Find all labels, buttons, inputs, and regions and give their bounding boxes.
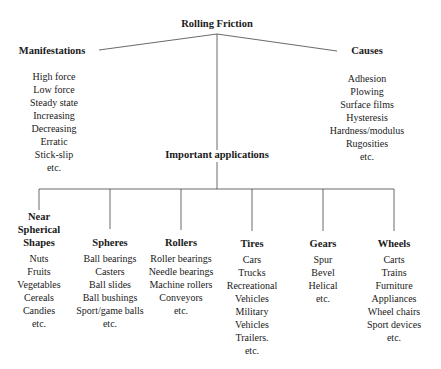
list-item: Ball bearings xyxy=(70,252,150,265)
list-item: Sport/game balls xyxy=(70,304,150,317)
list-item: Sport devices xyxy=(354,318,434,331)
list-item: Appliances xyxy=(354,292,434,305)
list-item: Erratic xyxy=(14,135,94,148)
causes-label: Causes xyxy=(337,44,397,57)
list-item: Adhesion xyxy=(317,72,417,85)
list-item: etc. xyxy=(354,331,434,344)
list-item: Trains xyxy=(354,266,434,279)
list-item: Vehicles xyxy=(212,318,292,331)
list-item: etc. xyxy=(212,344,292,357)
list-item: Bevel xyxy=(283,266,363,279)
list-item: Vegetables xyxy=(0,278,79,291)
category-label: Gears xyxy=(283,237,363,250)
list-item: Increasing xyxy=(14,109,94,122)
category-label: Tires xyxy=(212,237,292,250)
list-item: etc. xyxy=(141,304,221,317)
list-item: Machine rollers xyxy=(141,278,221,291)
list-item: Spur xyxy=(283,253,363,266)
list-item: Helical xyxy=(283,279,363,292)
diagram-title: Rolling Friction xyxy=(167,17,267,30)
list-item: Plowing xyxy=(317,85,417,98)
list-item: High force xyxy=(14,70,94,83)
applications-label: Important applications xyxy=(157,148,277,161)
category-spheres: Spheres Ball bearings Casters Ball slide… xyxy=(70,236,150,330)
list-item: Decreasing xyxy=(14,122,94,135)
causes-list: Adhesion Plowing Surface films Hysteresi… xyxy=(317,72,417,163)
list-item: Trucks xyxy=(212,266,292,279)
category-near-spherical-shapes: Near Spherical Shapes Nuts Fruits Vegeta… xyxy=(0,210,79,330)
list-item: Military xyxy=(212,305,292,318)
list-item: Nuts xyxy=(0,252,79,265)
list-item: etc. xyxy=(0,317,79,330)
category-label: Rollers xyxy=(141,236,221,249)
list-item: etc. xyxy=(70,317,150,330)
manifestations-list: High force Low force Steady state Increa… xyxy=(14,70,94,174)
list-item: Low force xyxy=(14,83,94,96)
list-item: etc. xyxy=(14,161,94,174)
list-item: Stick-slip xyxy=(14,148,94,161)
category-tires: Tires Cars Trucks Recreational Vehicles … xyxy=(212,237,292,357)
list-item: Conveyors xyxy=(141,291,221,304)
category-label: Wheels xyxy=(354,237,434,250)
list-item: Ball bushings xyxy=(70,291,150,304)
list-item: Casters xyxy=(70,265,150,278)
category-label: Near Spherical Shapes xyxy=(0,210,79,249)
list-item: Carts xyxy=(354,253,434,266)
list-item: Steady state xyxy=(14,96,94,109)
list-item: Candies xyxy=(0,304,79,317)
list-item: etc. xyxy=(317,150,417,163)
category-rollers: Rollers Roller bearings Needle bearings … xyxy=(141,236,221,317)
list-item: Cars xyxy=(212,253,292,266)
category-gears: Gears Spur Bevel Helical etc. xyxy=(283,237,363,305)
list-item: etc. xyxy=(283,292,363,305)
list-item: Trailers. xyxy=(212,331,292,344)
list-item: Surface films xyxy=(317,98,417,111)
list-item: Wheel chairs xyxy=(354,305,434,318)
manifestations-label: Manifestations xyxy=(14,44,90,57)
list-item: Rugosities xyxy=(317,137,417,150)
list-item: Hardness/modulus xyxy=(317,124,417,137)
category-wheels: Wheels Carts Trains Furniture Appliances… xyxy=(354,237,434,344)
category-label: Spheres xyxy=(70,236,150,249)
list-item: Vehicles xyxy=(212,292,292,305)
list-item: Recreational xyxy=(212,279,292,292)
list-item: Cereals xyxy=(0,291,79,304)
list-item: Fruits xyxy=(0,265,79,278)
list-item: Hysteresis xyxy=(317,111,417,124)
list-item: Needle bearings xyxy=(141,265,221,278)
list-item: Ball slides xyxy=(70,278,150,291)
list-item: Furniture xyxy=(354,279,434,292)
list-item: Roller bearings xyxy=(141,252,221,265)
